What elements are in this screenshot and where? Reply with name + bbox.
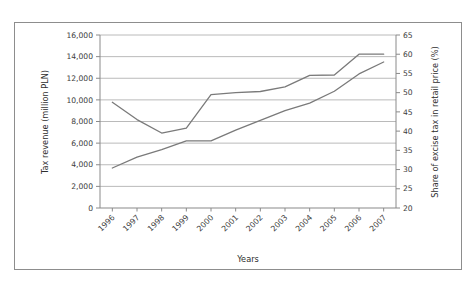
right-axis-title: Share of excise tax in retail price (%) <box>430 46 440 198</box>
right-axis-tick-label: 35 <box>403 146 413 155</box>
series-lines-group <box>112 54 383 168</box>
right-axis-tick-label: 65 <box>403 31 413 40</box>
left-axis-title: Tax revenue (million PLN) <box>40 70 50 175</box>
x-axis-tick-label: 2001 <box>220 213 240 233</box>
x-axis-title: Years <box>236 254 259 264</box>
right-axis-tick-label: 55 <box>403 69 413 78</box>
right-axis-tick-label: 25 <box>403 184 413 193</box>
left-axis-tick-label: 8,000 <box>71 117 93 126</box>
x-axis-ticks-group: 1996199719981999200020012002200320042005… <box>96 208 388 233</box>
x-axis-tick-label: 2006 <box>343 213 363 233</box>
left-axis-tick-label: 10,000 <box>66 96 93 105</box>
x-axis-tick-label: 1996 <box>96 213 116 233</box>
x-axis-tick-label: 2002 <box>244 213 264 233</box>
left-axis-ticks-group: 02,0004,0006,0008,00010,00012,00014,0001… <box>66 31 100 213</box>
chart-figure: 02,0004,0006,0008,00010,00012,00014,0001… <box>0 0 476 281</box>
right-axis-tick-label: 50 <box>403 88 413 97</box>
left-axis-tick-label: 16,000 <box>66 31 93 40</box>
x-axis-tick-label: 2007 <box>368 213 388 233</box>
gridlines-group <box>100 35 396 186</box>
x-axis-tick-label: 1998 <box>146 213 166 233</box>
x-axis-tick-label: 1999 <box>170 213 190 233</box>
left-axis-tick-label: 0 <box>88 204 93 213</box>
x-axis-tick-label: 2003 <box>269 213 289 233</box>
right-axis-tick-label: 20 <box>403 204 413 213</box>
left-axis-tick-label: 12,000 <box>66 74 93 83</box>
x-axis-tick-label: 2004 <box>294 213 314 233</box>
right-axis-tick-label: 45 <box>403 108 413 117</box>
x-axis-tick-label: 1997 <box>121 213 141 233</box>
right-axis-tick-label: 60 <box>403 50 413 59</box>
right-axis-tick-label: 40 <box>403 127 413 136</box>
left-axis-tick-label: 2,000 <box>71 182 93 191</box>
left-axis-tick-label: 6,000 <box>71 139 93 148</box>
chart-canvas: 02,0004,0006,0008,00010,00012,00014,0001… <box>0 0 476 281</box>
left-axis-tick-label: 14,000 <box>66 52 93 61</box>
right-axis-ticks-group: 20253035404550556065 <box>396 31 413 213</box>
x-axis-tick-label: 2005 <box>318 213 338 233</box>
right-axis-tick-label: 30 <box>403 165 413 174</box>
x-axis-tick-label: 2000 <box>195 213 215 233</box>
left-axis-tick-label: 4,000 <box>71 160 93 169</box>
